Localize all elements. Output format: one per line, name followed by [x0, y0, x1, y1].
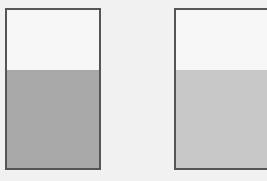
left-container	[5, 8, 101, 170]
left-container-fill	[7, 70, 99, 168]
right-container	[174, 8, 267, 170]
right-container-fill	[176, 70, 267, 168]
